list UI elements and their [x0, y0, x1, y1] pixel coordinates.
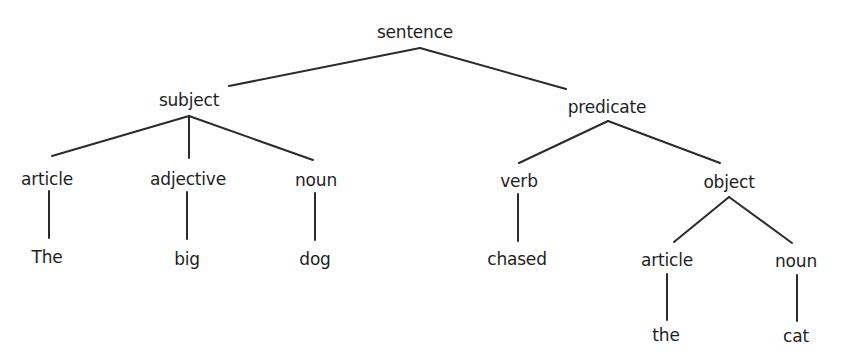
- node-predicate-object: object: [703, 172, 754, 192]
- edge-subject-noun: [189, 116, 313, 160]
- edge-object-article: [674, 197, 729, 242]
- node-subject-article: article: [21, 169, 73, 189]
- word-cat: cat: [783, 326, 809, 346]
- word-dog: dog: [299, 249, 330, 269]
- edge-sentence-predicate: [420, 48, 566, 89]
- node-subject-adjective: adjective: [150, 169, 226, 189]
- edge-subject-article: [52, 116, 189, 156]
- node-sentence: sentence: [377, 22, 453, 42]
- node-subject-noun: noun: [295, 170, 337, 190]
- edge-object-noun: [729, 197, 792, 243]
- edge-predicate-object: [608, 121, 720, 163]
- word-the: the: [652, 325, 679, 345]
- parse-tree-diagram: sentence subject predicate article adjec…: [0, 0, 841, 362]
- word-big: big: [174, 249, 200, 269]
- node-predicate-verb: verb: [500, 171, 538, 191]
- word-chased: chased: [487, 249, 546, 269]
- node-subject: subject: [159, 90, 219, 110]
- edge-sentence-subject: [229, 48, 420, 86]
- word-the-capital: The: [31, 247, 62, 267]
- node-predicate: predicate: [568, 97, 646, 117]
- edge-predicate-verb: [519, 121, 608, 163]
- node-object-noun: noun: [775, 251, 817, 271]
- node-object-article: article: [641, 250, 693, 270]
